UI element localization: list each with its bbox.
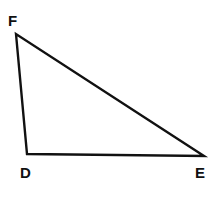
- vertex-label-f: F: [8, 12, 17, 29]
- triangle-diagram: F D E: [0, 0, 219, 197]
- triangle-fde: [16, 34, 204, 156]
- vertex-label-d: D: [20, 164, 31, 181]
- vertex-label-e: E: [195, 164, 205, 181]
